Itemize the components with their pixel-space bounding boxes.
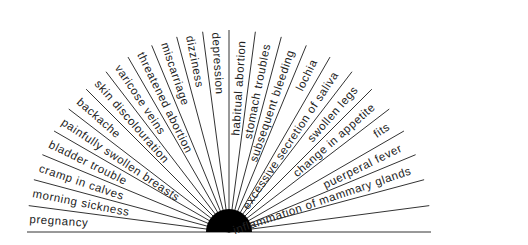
ray-label: dizziness (184, 35, 206, 89)
ray-label: fits (371, 120, 392, 139)
ray-label: lochia (294, 57, 320, 92)
ray-label: depression (210, 32, 226, 95)
ray-labels: pregnancymorning sicknesscramp in calves… (29, 32, 413, 236)
radial-fan-diagram: pregnancymorning sicknesscramp in calves… (0, 0, 528, 245)
ray-label: pregnancy (29, 213, 89, 229)
